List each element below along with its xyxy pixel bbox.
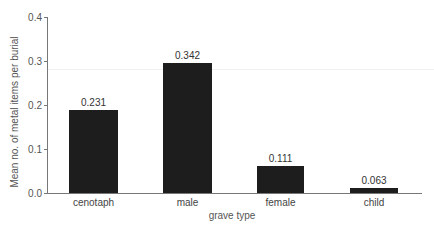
y-tick-label: 0.0 <box>18 188 42 199</box>
bar-child <box>350 188 398 193</box>
y-tick-label: 0.2 <box>18 100 42 111</box>
scan-line-artifact <box>47 69 434 70</box>
y-tick-label: 0.1 <box>18 144 42 155</box>
x-tick-label: cenotaph <box>59 197 129 208</box>
bar-chart: Mean no. of metal items per burial 0.40.… <box>0 0 434 233</box>
y-tick <box>44 61 47 62</box>
y-tick <box>44 193 47 194</box>
y-tick-label: 0.3 <box>18 56 42 67</box>
x-tick-label: female <box>246 197 316 208</box>
x-tick-label: child <box>339 197 409 208</box>
bar-female <box>257 166 304 193</box>
x-tick-label: male <box>153 197 223 208</box>
y-axis-line <box>47 17 48 194</box>
y-tick <box>44 17 47 18</box>
bar-male <box>163 63 212 193</box>
x-axis-line <box>47 193 422 194</box>
y-tick-label: 0.4 <box>18 12 42 23</box>
bar-value-label: 0.342 <box>158 50 218 61</box>
y-tick <box>44 105 47 106</box>
bar-cenotaph <box>69 110 118 193</box>
bar-value-label: 0.063 <box>344 175 404 186</box>
bar-value-label: 0.111 <box>251 153 311 164</box>
bar-value-label: 0.231 <box>64 97 124 108</box>
y-tick <box>44 149 47 150</box>
x-axis-label: grave type <box>197 210 267 221</box>
